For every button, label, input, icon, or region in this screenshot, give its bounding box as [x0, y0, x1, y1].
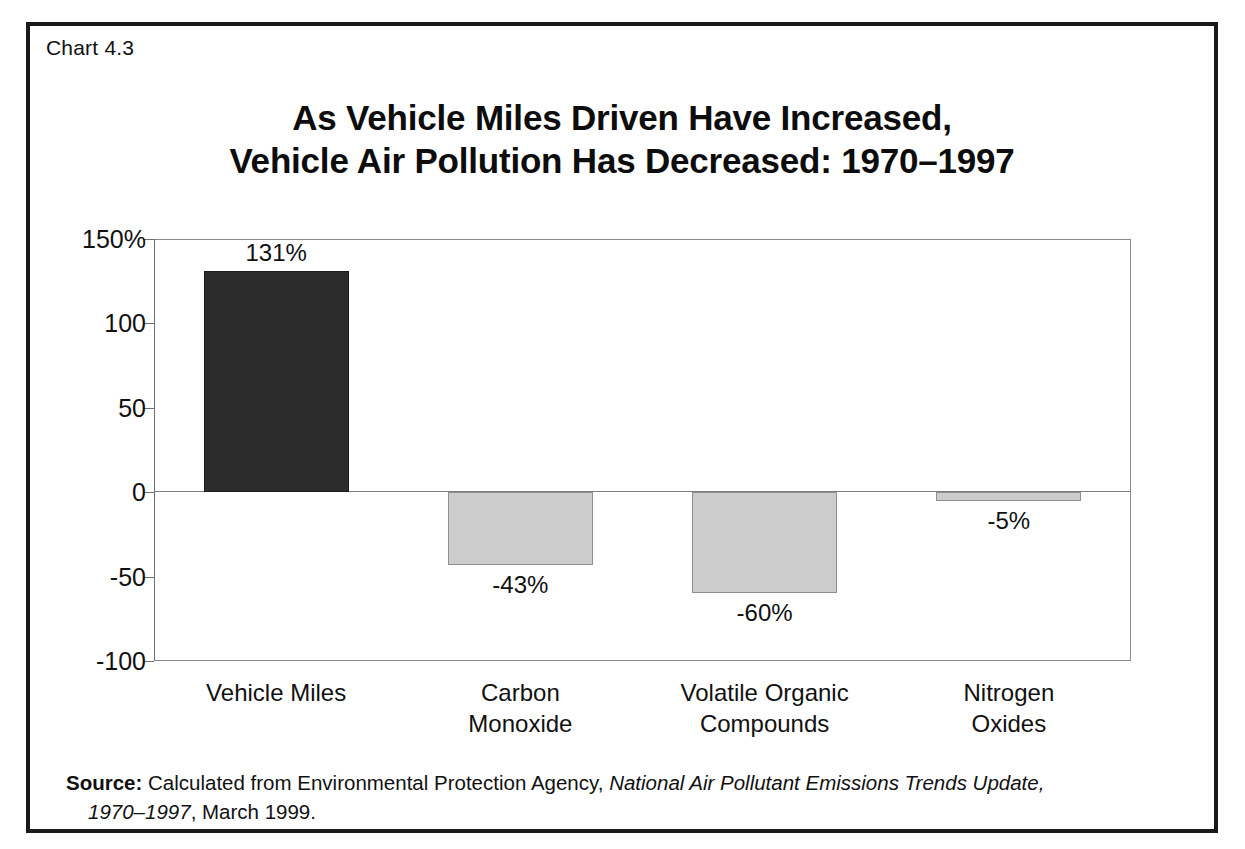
- category-label-carbon-monoxide: CarbonMonoxide: [468, 677, 572, 739]
- y-axis-tick-label: -50: [22, 562, 146, 591]
- category-label-line: Monoxide: [468, 708, 572, 739]
- source-line-2: 1970–1997, March 1999.: [66, 797, 1176, 826]
- y-axis-tick-label: -100: [22, 647, 146, 676]
- y-axis-tick-label: 100: [22, 309, 146, 338]
- category-label-line: Carbon: [468, 677, 572, 708]
- bar-carbon-monoxide[interactable]: [448, 492, 593, 565]
- bar-value-label: -5%: [988, 507, 1031, 535]
- category-label-vehicle-miles: Vehicle Miles: [206, 677, 346, 708]
- y-axis-tick-label: 0: [22, 478, 146, 507]
- category-label-line: Compounds: [681, 708, 849, 739]
- bar-nitrogen-oxides[interactable]: [936, 492, 1081, 500]
- category-label-line: Volatile Organic: [681, 677, 849, 708]
- source-text-after: , March 1999.: [191, 800, 316, 823]
- source-label: Source:: [66, 771, 142, 794]
- y-axis-spine: [154, 239, 155, 661]
- source-note: Source: Calculated from Environmental Pr…: [66, 768, 1176, 826]
- bar-vehicle-miles[interactable]: [204, 271, 349, 492]
- bar-value-label: 131%: [245, 239, 306, 267]
- category-label-line: Nitrogen: [964, 677, 1055, 708]
- chart-figure-frame: Chart 4.3 As Vehicle Miles Driven Have I…: [26, 22, 1218, 833]
- category-label-line: Vehicle Miles: [206, 677, 346, 708]
- y-axis-tick-label: 150%: [22, 225, 146, 254]
- source-publication-years: 1970–1997: [88, 800, 191, 823]
- category-label-nitrogen-oxides: NitrogenOxides: [964, 677, 1055, 739]
- source-text-before: Calculated from Environmental Protection…: [142, 771, 609, 794]
- plot-wrapper: 150%100500-50-100 131%-43%-60%-5% Vehicl…: [30, 26, 1214, 829]
- y-axis-tick-label: 50: [22, 393, 146, 422]
- category-label-line: Oxides: [964, 708, 1055, 739]
- source-publication-title: National Air Pollutant Emissions Trends …: [609, 771, 1044, 794]
- bar-volatile-organic-compounds[interactable]: [692, 492, 837, 593]
- bar-value-label: -43%: [492, 571, 548, 599]
- bar-value-label: -60%: [737, 599, 793, 627]
- category-label-volatile-organic-compounds: Volatile OrganicCompounds: [681, 677, 849, 739]
